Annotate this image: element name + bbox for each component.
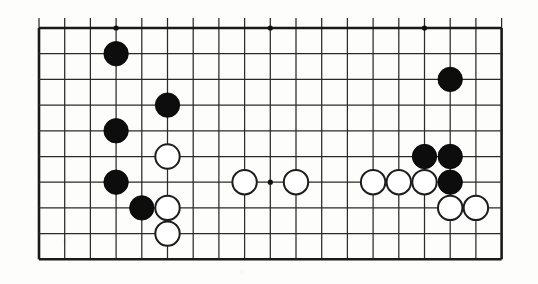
black-stone-6[interactable] [438,67,462,91]
white-stone-6[interactable] [361,170,385,194]
go-diagram-page [0,0,538,284]
white-stone-3[interactable] [155,221,179,245]
black-stone-9[interactable] [438,170,462,194]
black-stone-8[interactable] [438,144,462,168]
white-stone-1[interactable] [155,144,179,168]
go-board[interactable] [0,0,538,284]
black-stone-2[interactable] [155,93,179,117]
white-stone-2[interactable] [155,196,179,220]
hoshi-point-1 [114,25,119,30]
board-background [0,0,538,284]
white-stone-7[interactable] [387,170,411,194]
hoshi-point-4 [268,180,273,185]
hoshi-point-2 [268,25,273,30]
black-stone-7[interactable] [412,144,436,168]
white-stone-10[interactable] [464,196,488,220]
white-stone-9[interactable] [438,196,462,220]
black-stone-1[interactable] [104,42,128,66]
black-stone-5[interactable] [130,196,154,220]
black-stone-4[interactable] [104,170,128,194]
white-stone-5[interactable] [284,170,308,194]
white-stone-4[interactable] [232,170,256,194]
black-stone-3[interactable] [104,119,128,143]
goban-svg[interactable] [0,0,538,284]
hoshi-point-3 [422,25,427,30]
white-stone-8[interactable] [412,170,436,194]
